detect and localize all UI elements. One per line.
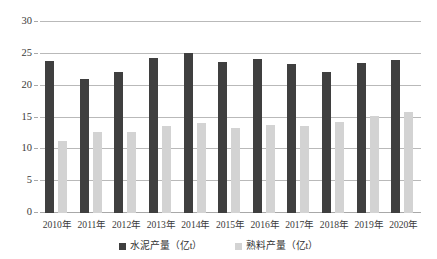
y-axis-tickmark: [34, 85, 38, 86]
bar-clinker: [162, 126, 171, 213]
bar-group: [282, 22, 317, 213]
x-axis-labels: 2010年2011年2012年2013年2014年2015年2016年2017年…: [40, 216, 421, 234]
bar-clinker: [93, 132, 102, 213]
bar-cement: [80, 79, 89, 213]
y-axis-tickmark: [34, 148, 38, 149]
legend-item[interactable]: 熟料产量（亿t）: [235, 240, 319, 252]
y-axis-tick: 25: [0, 53, 38, 54]
bar-cement: [391, 60, 400, 213]
bar-cement: [45, 61, 54, 213]
bar-clinker: [127, 132, 136, 213]
bar-clinker: [370, 116, 379, 213]
bar-group: [109, 22, 144, 213]
bar-group: [144, 22, 179, 213]
bar-cement: [114, 72, 123, 213]
y-axis-tick: 10: [0, 148, 38, 149]
y-axis-tick-label: 15: [22, 111, 33, 122]
bar-groups: [40, 22, 421, 213]
x-axis-label: 2014年: [179, 216, 214, 234]
y-axis-tick: 20: [0, 85, 38, 86]
y-axis: 302520151050: [0, 22, 38, 213]
bar-group: [317, 22, 352, 213]
bar-clinker: [266, 125, 275, 213]
bar-group: [248, 22, 283, 213]
x-axis-label: 2010年: [40, 216, 75, 234]
bar-cement: [322, 72, 331, 213]
plot-area: [40, 22, 421, 213]
bar-clinker: [335, 122, 344, 213]
bar-cement: [253, 59, 262, 213]
light-square-icon: [235, 243, 242, 250]
bar-cement: [357, 63, 366, 213]
bar-cement: [149, 58, 158, 213]
bar-cement: [218, 62, 227, 213]
y-axis-tickmark: [34, 53, 38, 54]
bar-clinker: [58, 141, 67, 213]
y-axis-tick-label: 30: [22, 15, 33, 26]
bar-group: [352, 22, 387, 213]
y-axis-tick-label: 0: [27, 206, 32, 217]
dark-square-icon: [119, 243, 126, 250]
x-axis-label: 2019年: [352, 216, 387, 234]
y-axis-tick: 0: [0, 212, 38, 213]
y-axis-tick: 15: [0, 117, 38, 118]
y-axis-tick-label: 20: [22, 79, 33, 90]
y-axis-tick-label: 10: [22, 142, 33, 153]
x-axis-label: 2013年: [144, 216, 179, 234]
x-axis-label: 2020年: [386, 216, 421, 234]
y-axis-tickmark: [34, 21, 38, 22]
legend-item-label: 熟料产量（亿t）: [246, 240, 319, 252]
x-axis-label: 2012年: [109, 216, 144, 234]
bar-group: [213, 22, 248, 213]
x-axis-label: 2017年: [282, 216, 317, 234]
bar-clinker: [231, 128, 240, 213]
legend-item[interactable]: 水泥产量（亿t）: [119, 240, 203, 252]
y-axis-tickmark: [34, 180, 38, 181]
y-axis-tick: 5: [0, 180, 38, 181]
bar-cement: [287, 64, 296, 213]
bar-group: [179, 22, 214, 213]
y-axis-tick: 30: [0, 21, 38, 22]
x-axis-label: 2015年: [213, 216, 248, 234]
y-axis-tickmark: [34, 117, 38, 118]
y-axis-tick-label: 25: [22, 47, 33, 58]
x-axis-label: 2011年: [75, 216, 110, 234]
bar-clinker: [300, 126, 309, 213]
x-axis-label: 2018年: [317, 216, 352, 234]
chart-legend: 水泥产量（亿t）熟料产量（亿t）: [0, 238, 437, 254]
bar-clinker: [197, 123, 206, 213]
bar-group: [75, 22, 110, 213]
y-axis-tick-label: 5: [27, 174, 32, 185]
bar-group: [386, 22, 421, 213]
bar-chart: 302520151050 2010年2011年2012年2013年2014年20…: [0, 0, 437, 259]
legend-item-label: 水泥产量（亿t）: [130, 240, 203, 252]
x-axis-label: 2016年: [248, 216, 283, 234]
bar-cement: [184, 53, 193, 213]
bar-group: [40, 22, 75, 213]
y-axis-tickmark: [34, 212, 38, 213]
bar-clinker: [404, 112, 413, 213]
